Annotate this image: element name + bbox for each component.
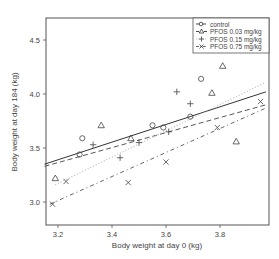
svg-text:control: control [210, 21, 230, 28]
x-tick-label: 3.2 [53, 230, 63, 239]
triangle-marker-icon [52, 175, 58, 181]
y-tick-label: 3.0 [30, 198, 40, 207]
x-axis-label: Body weight at day 0 (kg) [112, 241, 203, 250]
x-marker-icon [163, 159, 168, 164]
plus-marker-icon [187, 101, 193, 107]
circle-marker-icon [199, 22, 203, 26]
y-axis: 3.03.54.04.5 [30, 36, 46, 207]
y-tick-label: 4.5 [30, 36, 40, 45]
triangle-marker-icon [98, 122, 104, 128]
y-tick-label: 3.5 [30, 144, 40, 153]
regression-lines [45, 82, 266, 204]
y-tick-label: 4.0 [30, 90, 40, 99]
triangle-marker-icon [220, 63, 226, 69]
y-axis-label: Body weight at day 184 (kg) [10, 72, 19, 172]
plus-marker-icon [174, 89, 180, 95]
triangle-marker-icon [233, 138, 239, 144]
x-tick-label: 3.8 [215, 230, 225, 239]
circle-marker-icon [80, 136, 85, 141]
x-marker-icon [126, 180, 131, 185]
triangle-marker-icon [209, 90, 215, 96]
circle-marker-icon [199, 76, 204, 81]
scatter-chart: 3.23.43.63.8 3.03.54.04.5 Body weight at… [0, 0, 279, 259]
x-marker-icon [63, 179, 68, 184]
plus-marker-icon [166, 129, 172, 135]
fit-line-dotdash [50, 108, 266, 204]
x-tick-label: 3.6 [161, 230, 171, 239]
fit-line-dotted [55, 82, 266, 185]
plus-marker-icon [90, 142, 96, 148]
plus-marker-icon [117, 155, 123, 161]
x-tick-label: 3.4 [107, 230, 117, 239]
circle-marker-icon [150, 123, 155, 128]
legend: control PFOS 0.03 mg/kg PFOS 0.15 mg/kg … [193, 18, 269, 53]
svg-text:PFOS 0.75 mg/kg: PFOS 0.75 mg/kg [210, 43, 262, 51]
x-marker-icon [258, 99, 263, 104]
x-axis: 3.23.43.63.8 [53, 225, 225, 239]
